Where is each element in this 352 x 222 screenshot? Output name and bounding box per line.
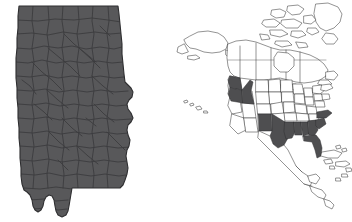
state-county-map-panel <box>0 0 176 222</box>
arctic-islands-outline <box>260 5 319 48</box>
locator-map-panel <box>176 0 352 222</box>
highlighted-state-florida <box>303 135 322 158</box>
highlighted-state-new-mexico <box>258 114 272 131</box>
caribbean-outline <box>321 145 352 181</box>
mexico-central-america-outline <box>258 131 334 209</box>
state-county-map-svg <box>0 0 176 222</box>
highlighted-state-louisiana <box>284 122 295 139</box>
highlighted-state-south-carolina <box>316 118 326 129</box>
map-figure: Alabama North America <box>0 0 352 222</box>
locator-map-svg <box>176 0 352 222</box>
hawaii-outline <box>184 100 208 113</box>
greenland-outline <box>314 3 342 44</box>
highlighted-state-north-carolina <box>317 110 332 118</box>
highlighted-state-alabama <box>301 122 309 136</box>
highlighted-state-mississippi <box>294 122 302 135</box>
